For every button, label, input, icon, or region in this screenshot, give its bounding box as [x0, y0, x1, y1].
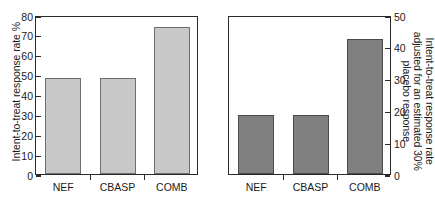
- y-tick-label-left-70: 70: [21, 31, 33, 42]
- x-category-label-left-nef: NEF: [36, 182, 90, 193]
- x-category-label-left-cbasp: CBASP: [90, 182, 144, 193]
- x-separator-tick-left-0: [90, 174, 91, 180]
- bar-left-comb: [154, 27, 190, 174]
- chart-panel-right: Intent-to-treat response rate adjusted f…: [218, 0, 435, 199]
- plot-area-right: 01020304050 NEFCBASPCOMB: [228, 16, 391, 175]
- y-tick-right-40: [385, 48, 390, 49]
- y-tick-label-left-50: 50: [21, 71, 33, 82]
- x-category-label-left-comb: COMB: [145, 182, 199, 193]
- bar-left-nef: [45, 78, 81, 174]
- x-category-label-right-nef: NEF: [229, 182, 283, 193]
- y-tick-left-70: [36, 36, 41, 37]
- y-tick-label-right-50: 50: [394, 12, 406, 23]
- y-tick-label-right-10: 10: [394, 139, 406, 150]
- y-tick-left-30: [36, 116, 41, 117]
- y-tick-left-10: [36, 156, 41, 157]
- chart-panel-left: Intent-to-treat response rate % 01020304…: [0, 0, 205, 199]
- bar-right-comb: [347, 39, 383, 174]
- y-tick-left-40: [36, 96, 41, 97]
- bar-left-cbasp: [100, 78, 136, 174]
- x-separator-tick-right-1: [337, 174, 338, 180]
- y-tick-label-left-10: 10: [21, 151, 33, 162]
- y-axis-title-right-line-2: adjusted for an estimated 30%: [412, 18, 424, 184]
- y-tick-left-80: [36, 16, 41, 17]
- x-category-label-right-cbasp: CBASP: [283, 182, 337, 193]
- bar-right-nef: [238, 115, 274, 174]
- y-tick-right-0: [385, 175, 390, 176]
- y-tick-label-right-0: 0: [394, 171, 400, 182]
- y-tick-left-0: [36, 175, 41, 176]
- x-separator-tick-left-1: [144, 174, 145, 180]
- y-tick-label-right-40: 40: [394, 43, 406, 54]
- y-tick-right-10: [385, 144, 390, 145]
- y-tick-left-50: [36, 76, 41, 77]
- y-tick-label-left-60: 60: [21, 51, 33, 62]
- y-tick-right-20: [385, 112, 390, 113]
- y-tick-label-right-20: 20: [394, 107, 406, 118]
- x-separator-tick-right-0: [283, 174, 284, 180]
- y-tick-label-left-20: 20: [21, 131, 33, 142]
- y-tick-right-50: [385, 16, 390, 17]
- figure: Intent-to-treat response rate % 01020304…: [0, 0, 435, 199]
- y-tick-label-left-0: 0: [27, 171, 33, 182]
- y-tick-left-20: [36, 136, 41, 137]
- bar-right-cbasp: [293, 115, 329, 174]
- y-tick-label-left-30: 30: [21, 111, 33, 122]
- plot-area-left: 01020304050607080 NEFCBASPCOMB: [35, 16, 198, 175]
- y-tick-left-60: [36, 56, 41, 57]
- y-axis-title-right-line-1: Intent-to-treat response rate: [424, 18, 435, 184]
- y-tick-right-30: [385, 80, 390, 81]
- y-tick-label-right-30: 30: [394, 75, 406, 86]
- x-category-label-right-comb: COMB: [338, 182, 392, 193]
- y-tick-label-left-40: 40: [21, 91, 33, 102]
- y-tick-label-left-80: 80: [21, 12, 33, 23]
